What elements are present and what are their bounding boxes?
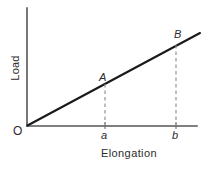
axis-label-y: Load xyxy=(8,48,22,88)
figure-canvas xyxy=(0,0,209,169)
origin-label: O xyxy=(13,125,22,137)
point-label-a: A xyxy=(99,72,106,83)
axis-label-y-text: Load xyxy=(10,55,21,80)
axis-label-x: Elongation xyxy=(101,148,157,159)
x-tick-label-b: b xyxy=(172,130,178,141)
point-label-b: B xyxy=(174,29,181,40)
load-elongation-curve xyxy=(28,33,201,126)
load-elongation-figure: Load Elongation O A B a b xyxy=(0,0,209,169)
x-tick-label-a: a xyxy=(101,130,107,141)
